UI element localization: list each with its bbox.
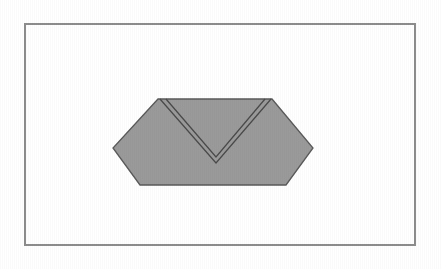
- figure-container: [0, 0, 441, 269]
- figure-svg: [0, 0, 441, 269]
